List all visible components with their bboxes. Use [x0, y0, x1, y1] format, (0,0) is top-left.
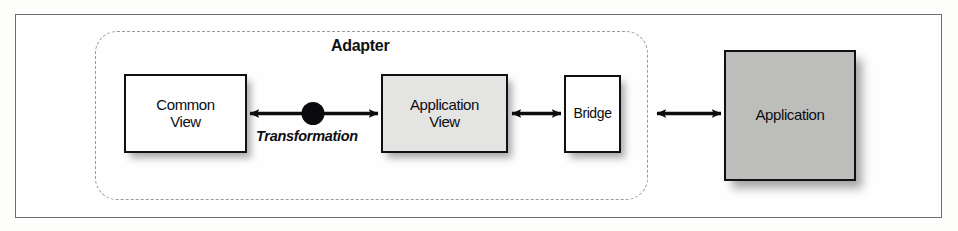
node-common-view-label: Common View: [156, 97, 214, 131]
node-application[interactable]: Application: [724, 50, 856, 181]
node-application-view[interactable]: Application View: [381, 74, 508, 153]
transformation-node-marker: [302, 102, 325, 125]
node-common-view[interactable]: Common View: [124, 74, 247, 153]
node-application-view-label: Application View: [410, 97, 479, 131]
node-bridge[interactable]: Bridge: [564, 75, 621, 153]
connector-common-view-to-application-view: [250, 102, 378, 125]
diagram-figure: Adapter Application View --> Bridge --> …: [0, 0, 958, 231]
node-application-label: Application: [756, 107, 825, 124]
connector-label-transformation: Transformation: [256, 128, 358, 144]
node-bridge-label: Bridge: [573, 106, 611, 122]
